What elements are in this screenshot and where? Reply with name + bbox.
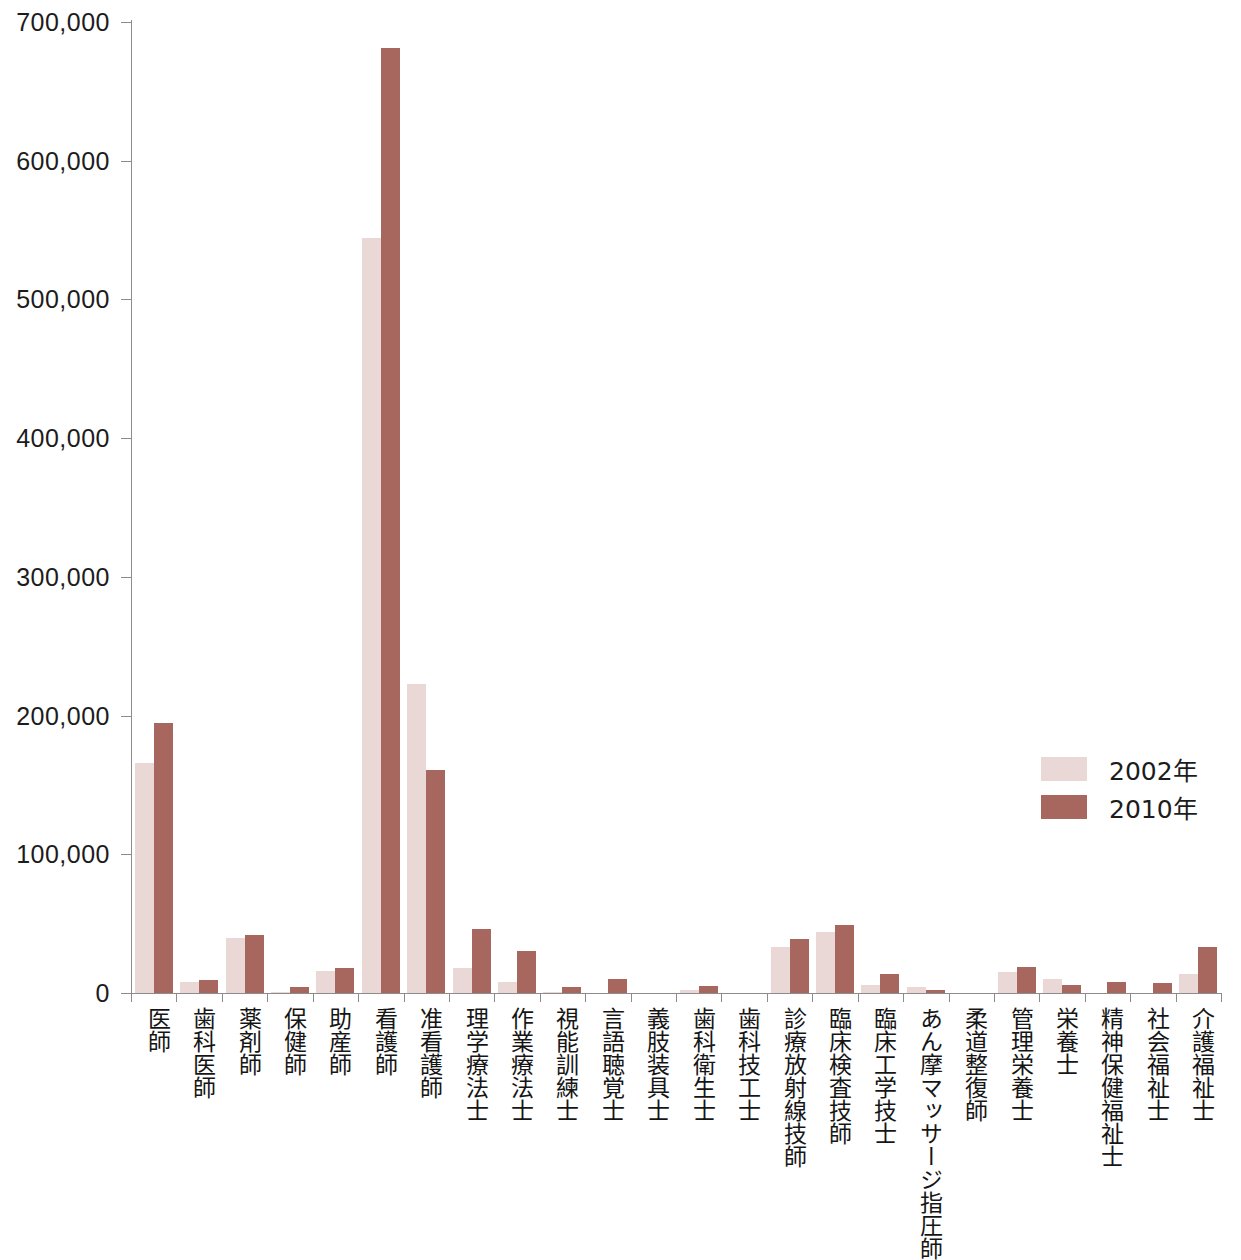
plot-area xyxy=(131,22,1221,993)
x-axis-tick xyxy=(176,993,177,1002)
bar-2002 xyxy=(998,972,1017,993)
bar-2010 xyxy=(790,939,809,993)
x-axis-category-label: 診療放射線技師 xyxy=(776,1007,806,1168)
y-axis-tick-label: 300,000 xyxy=(16,562,110,591)
bar-group xyxy=(816,22,854,993)
x-axis-category-label: 助産師 xyxy=(321,1007,351,1076)
bar-2010 xyxy=(1198,947,1217,993)
bar-2002 xyxy=(680,990,699,993)
x-axis-category-label: 視能訓練士 xyxy=(548,1007,578,1122)
bar-group xyxy=(316,22,354,993)
x-axis-category-label: 臨床工学技士 xyxy=(866,1007,896,1145)
bar-2002 xyxy=(271,992,290,993)
x-axis-tick xyxy=(494,993,495,1002)
bar-2010 xyxy=(472,929,491,993)
bar-group xyxy=(226,22,264,993)
x-axis-tick xyxy=(767,993,768,1002)
bar-group xyxy=(135,22,173,993)
x-axis-category-label: 理学療法士 xyxy=(458,1007,488,1122)
x-axis-category-label: 医師 xyxy=(140,1007,170,1053)
x-axis-tick xyxy=(631,993,632,1002)
x-axis-category-label: 言語聴覚士 xyxy=(594,1007,624,1122)
bar-group xyxy=(498,22,536,993)
x-axis-category-label: 介護福祉士 xyxy=(1184,1007,1214,1122)
x-axis-tick xyxy=(1039,993,1040,1002)
bar-2010 xyxy=(1107,982,1126,993)
legend-item-2002: 2002年 xyxy=(1041,752,1198,786)
bar-group xyxy=(771,22,809,993)
x-axis-category-label: 臨床検査技師 xyxy=(821,1007,851,1145)
x-axis-category-label: 管理栄養士 xyxy=(1003,1007,1033,1122)
bar-2002 xyxy=(407,684,426,993)
x-axis-tick xyxy=(994,993,995,1002)
x-axis-category-label: 歯科技工士 xyxy=(730,1007,760,1122)
x-axis-tick xyxy=(676,993,677,1002)
x-axis-category-label: 精神保健福祉士 xyxy=(1093,1007,1123,1168)
bar-2010 xyxy=(699,986,718,993)
bar-group xyxy=(634,22,672,993)
bar-2010 xyxy=(245,935,264,993)
bar-2002 xyxy=(180,982,199,993)
bar-2010 xyxy=(335,968,354,993)
x-axis-tick xyxy=(1176,993,1177,1002)
x-axis-tick xyxy=(358,993,359,1002)
bar-group xyxy=(543,22,581,993)
x-axis-category-label: 薬剤師 xyxy=(231,1007,261,1076)
bar-2010 xyxy=(290,987,309,993)
y-axis-tick-label: 0 xyxy=(96,979,110,1008)
bar-2010 xyxy=(1153,983,1172,993)
legend-swatch-2010 xyxy=(1041,795,1087,819)
y-axis-tick-label: 600,000 xyxy=(16,146,110,175)
x-axis-tick xyxy=(812,993,813,1002)
x-axis-tick xyxy=(1085,993,1086,1002)
bar-2010 xyxy=(199,980,218,993)
y-axis-tick-label: 400,000 xyxy=(16,424,110,453)
bar-2010 xyxy=(880,974,899,993)
x-axis-tick xyxy=(585,993,586,1002)
legend-item-2010: 2010年 xyxy=(1041,790,1198,824)
x-axis-tick xyxy=(131,993,132,1002)
y-axis-tick-label: 700,000 xyxy=(16,8,110,37)
x-axis-category-label: 歯科衛生士 xyxy=(685,1007,715,1122)
x-axis-tick xyxy=(313,993,314,1002)
bar-2002 xyxy=(316,971,335,993)
bar-2002 xyxy=(1043,979,1062,993)
y-axis-tick-label: 100,000 xyxy=(16,840,110,869)
bar-group xyxy=(589,22,627,993)
legend-label-2002: 2002年 xyxy=(1109,751,1198,787)
x-axis-tick xyxy=(949,993,950,1002)
bar-2010 xyxy=(835,925,854,993)
x-axis-tick xyxy=(540,993,541,1002)
x-axis-category-label: 義肢装具士 xyxy=(639,1007,669,1122)
x-axis-category-label: 作業療法士 xyxy=(503,1007,533,1122)
bar-2002 xyxy=(543,992,562,993)
x-axis-tick xyxy=(449,993,450,1002)
legend-swatch-2002 xyxy=(1041,757,1087,781)
x-axis-category-label: 柔道整復師 xyxy=(957,1007,987,1122)
bar-group xyxy=(907,22,945,993)
x-axis-category-label: 准看護師 xyxy=(412,1007,442,1099)
x-axis-tick xyxy=(903,993,904,1002)
bar-2010 xyxy=(1062,985,1081,993)
x-axis-tick xyxy=(721,993,722,1002)
bar-group xyxy=(1179,22,1217,993)
bar-2002 xyxy=(816,932,835,993)
bar-group xyxy=(680,22,718,993)
x-axis-tick xyxy=(858,993,859,1002)
bar-2002 xyxy=(1179,974,1198,993)
x-axis-category-label: 社会福祉士 xyxy=(1139,1007,1169,1122)
x-axis-tick xyxy=(267,993,268,1002)
x-axis-tick xyxy=(222,993,223,1002)
legend: 2002年 2010年 xyxy=(1041,752,1198,828)
bar-2010 xyxy=(608,979,627,993)
bar-group xyxy=(952,22,990,993)
bar-2010 xyxy=(1017,967,1036,993)
y-axis-tick-label: 200,000 xyxy=(16,701,110,730)
bar-2002 xyxy=(861,985,880,993)
bar-group xyxy=(180,22,218,993)
bar-group xyxy=(1088,22,1126,993)
x-axis-tick xyxy=(1221,993,1222,1002)
x-axis-category-label: 看護師 xyxy=(367,1007,397,1076)
bar-2002 xyxy=(453,968,472,993)
bar-group xyxy=(1043,22,1081,993)
